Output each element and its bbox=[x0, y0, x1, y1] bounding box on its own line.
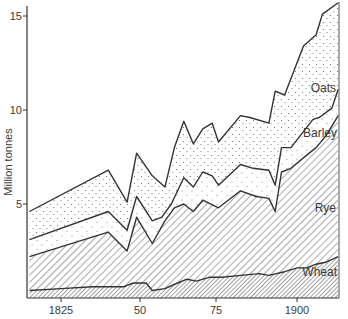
y-tick-label-10: 10 bbox=[10, 104, 22, 116]
x-tick-label-1900: 1900 bbox=[285, 304, 309, 316]
y-tick-label-15: 15 bbox=[10, 10, 22, 22]
y-tick-label-5: 5 bbox=[16, 198, 22, 210]
series-label-wheat: Wheat bbox=[302, 265, 337, 279]
series-label-oats: Oats bbox=[311, 81, 336, 95]
stacked-area-chart: 15 10 5 Million tonnes 1825 50 75 1900 O… bbox=[0, 0, 348, 319]
y-axis-title: Million tonnes bbox=[2, 128, 14, 196]
plot-area bbox=[30, 3, 339, 298]
x-tick-label-1825: 1825 bbox=[49, 304, 73, 316]
x-tick-label-1850: 50 bbox=[134, 304, 146, 316]
series-label-barley: Barley bbox=[303, 126, 337, 140]
x-tick-label-1875: 75 bbox=[210, 304, 222, 316]
series-label-rye: Rye bbox=[315, 201, 337, 215]
